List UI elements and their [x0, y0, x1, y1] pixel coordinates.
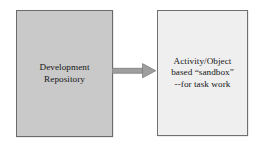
node-development-repository[interactable]: Development Repository [16, 10, 113, 137]
node-development-repository-label: Development Repository [36, 62, 92, 85]
flow-diagram-canvas: Development Repository Activity/Object b… [0, 0, 261, 146]
arrow-right-icon [112, 60, 158, 84]
node-sandbox-label: Activity/Object based “sandbox” --for ta… [168, 56, 237, 91]
node-sandbox[interactable]: Activity/Object based “sandbox” --for ta… [157, 10, 248, 136]
arrow-repo-to-sandbox[interactable] [112, 60, 158, 84]
